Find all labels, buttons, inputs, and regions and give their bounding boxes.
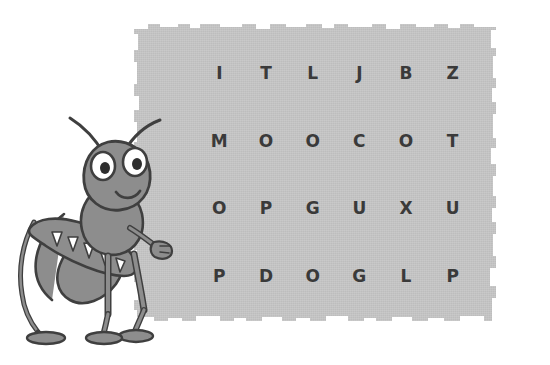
torn-edge-notch (196, 316, 220, 321)
torn-edge-notch (448, 24, 460, 28)
torn-edge-notch (492, 208, 496, 222)
grid-cell[interactable]: P (446, 268, 458, 285)
grid-cell[interactable]: L (401, 268, 412, 285)
grasshopper-illustration (8, 104, 180, 346)
grid-cell[interactable]: O (259, 133, 273, 150)
torn-edge-notch (493, 114, 496, 138)
grid-cell[interactable]: D (259, 268, 273, 285)
torn-edge-notch (490, 268, 496, 286)
grid-cell[interactable]: U (446, 200, 460, 217)
torn-edge-notch (416, 24, 434, 27)
foot-back (27, 332, 65, 344)
grid-cell[interactable]: O (212, 200, 226, 217)
torn-edge-notch (220, 24, 242, 27)
grid-cell[interactable]: O (305, 268, 319, 285)
torn-edge-notch (492, 88, 496, 102)
torn-edge-notch (262, 317, 282, 321)
grid-cell[interactable]: X (399, 200, 412, 217)
torn-edge-notch (134, 62, 137, 84)
torn-edge-notch (296, 318, 310, 321)
torn-edge-notch (392, 317, 412, 321)
grid-cell[interactable]: P (213, 268, 225, 285)
torn-edge-notch (322, 24, 334, 28)
grid-cell[interactable]: T (260, 65, 272, 82)
torn-edge-notch (493, 234, 496, 256)
torn-edge-notch (134, 24, 148, 29)
foot-middle (86, 332, 122, 344)
pupil-left (100, 162, 110, 174)
grid-cell[interactable]: C (353, 133, 365, 150)
grid-cell[interactable]: O (305, 133, 319, 150)
grid-cell[interactable]: I (216, 65, 222, 82)
grid-cell[interactable]: U (352, 200, 366, 217)
torn-edge-notch (493, 56, 496, 78)
grid-cell[interactable]: M (211, 133, 228, 150)
grid-cell[interactable]: O (399, 133, 413, 150)
grid-cell[interactable]: G (352, 268, 366, 285)
torn-edge-notch (386, 24, 400, 29)
torn-edge-notch (134, 34, 138, 50)
foot-front (119, 330, 153, 342)
hand (151, 241, 172, 258)
torn-edge-notch (474, 24, 496, 27)
torn-edge-notch (491, 30, 496, 48)
letter-grid: I T L J B Z M O O C O T O P G U X U P D … (196, 40, 476, 310)
grid-cell[interactable]: B (400, 65, 413, 82)
grid-cell[interactable]: P (260, 200, 272, 217)
torn-edge-notch (364, 318, 376, 321)
grid-cell[interactable]: G (306, 200, 320, 217)
torn-edge-notch (286, 24, 306, 27)
pupil-right (132, 158, 142, 170)
grid-cell[interactable]: J (356, 65, 362, 82)
torn-edge-notch (491, 148, 496, 164)
torn-edge-notch (493, 176, 496, 196)
grid-cell[interactable]: Z (447, 65, 459, 82)
torn-edge-notch (160, 24, 178, 27)
grid-cell[interactable]: T (447, 133, 459, 150)
grid-cell[interactable]: L (307, 65, 318, 82)
torn-edge-notch (326, 316, 348, 321)
torn-edge-notch (460, 316, 484, 321)
torn-edge-notch (348, 24, 372, 27)
puzzle-scene: I T L J B Z M O O C O T O P G U X U P D … (0, 0, 550, 365)
torn-edge-notch (190, 24, 200, 28)
torn-edge-notch (234, 318, 246, 321)
torn-edge-notch (256, 24, 270, 29)
torn-edge-notch (492, 298, 496, 321)
torn-edge-notch (428, 318, 444, 321)
